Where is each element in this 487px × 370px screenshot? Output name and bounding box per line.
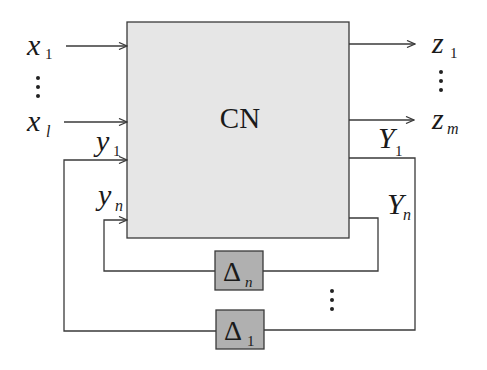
delta-1-symbol: Δ [224,315,242,346]
output-z1-sub: 1 [450,45,458,61]
yn-sub: n [115,197,123,214]
yn-var: y [95,178,112,211]
input-x1: x 1 [26,28,127,62]
output-z1-var: z [431,26,444,59]
feedback-input-yn: y n [95,178,123,214]
delta-n-sub: n [245,274,253,290]
loop-ellipsis [330,289,334,311]
delta-1-sub: 1 [247,333,255,349]
y1-sub: 1 [113,143,121,159]
output-zm-var: z [431,102,444,135]
input-x1-var: x [26,28,41,61]
input-xl: x l [26,104,127,140]
cn-label: CN [220,102,260,134]
input-xl-sub: l [46,123,51,140]
input-x1-sub: 1 [45,46,53,62]
y1-var: y [93,124,110,157]
block-diagram: CN x 1 x l z 1 z m y 1 y n Y [0,0,487,370]
output-z1: z 1 [349,26,458,61]
Y1-sub: 1 [395,143,403,159]
output-zm-sub: m [447,120,459,137]
cn-block: CN [127,22,349,238]
delta-n-symbol: Δ [223,256,241,287]
feedback-output-Yn: Y n [387,187,411,223]
delta-n-block: Δ n [215,251,263,290]
feedback-output-Y1: Y 1 [378,121,403,159]
input-ellipsis [36,76,40,98]
output-zm: z m [349,102,459,137]
delta-1-block: Δ 1 [216,310,264,349]
input-xl-var: x [26,104,41,137]
feedback-input-y1: y 1 [93,124,121,159]
output-ellipsis [439,70,443,92]
Yn-sub: n [403,206,411,223]
